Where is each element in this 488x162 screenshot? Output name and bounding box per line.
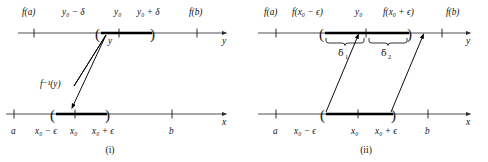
- panel-i-label-x0-plus-eps: x₀ + ϵ: [91, 126, 115, 136]
- panel-i-label-x0-minus-eps: x₀ − ϵ: [34, 126, 58, 136]
- panel-i-x-close-paren: ): [105, 107, 110, 124]
- panel-i-y-axis-name: y: [221, 36, 227, 46]
- panel-ii-map-arrow-right: [391, 38, 422, 112]
- panel-ii-brace-delta2: [369, 38, 407, 46]
- panel-i-x-axis-name: x: [221, 117, 227, 127]
- figure-canvas: f(a) y₀ − δ y₀ y₀ + δ f(b) ( ) y y: [0, 0, 488, 162]
- panel-i-label-y0: y₀: [113, 7, 121, 17]
- panel-ii-x-open-paren: (: [320, 107, 325, 124]
- panel-i-label-b: b: [169, 126, 174, 136]
- panel-i-x-open-paren: (: [50, 107, 55, 124]
- panel-ii-label-b: b: [425, 126, 430, 136]
- panel-ii-x-close-paren: ): [391, 107, 396, 124]
- panel-i-label-y0-minus-delta: y₀ − δ: [61, 7, 85, 17]
- panel-i-label-f-b: f(b): [189, 7, 202, 18]
- panel-i-label-y0-plus-delta: y₀ + δ: [136, 7, 160, 17]
- panel-ii-label-f-a: f(a): [264, 7, 277, 18]
- panel-ii-y-close-paren: ): [407, 26, 412, 43]
- panel-ii-caption: (ii): [360, 144, 372, 156]
- panel-ii-label-x0-minus-eps: x₀ − ϵ: [293, 126, 317, 136]
- panel-i: f(a) y₀ − δ y₀ y₀ + δ f(b) ( ) y y: [6, 7, 227, 156]
- panel-ii-label-delta1: δ: [338, 47, 344, 58]
- panel-i-label-f-a: f(a): [22, 7, 35, 18]
- panel-i-label-a: a: [11, 126, 16, 136]
- figure-root: f(a) y₀ − δ y₀ y₀ + δ f(b) ( ) y y: [0, 0, 488, 162]
- panel-ii-label-a: a: [273, 126, 278, 136]
- panel-ii-y-open-paren: (: [319, 26, 324, 43]
- panel-ii-x-axis-name: x: [465, 117, 471, 127]
- panel-ii-label-delta2: δ: [381, 47, 387, 58]
- panel-ii-label-f-x0-plus-eps: f(x₀ + ϵ): [383, 7, 414, 18]
- panel-ii-label-f-x0-minus-eps: f(x₀ − ϵ): [292, 7, 323, 18]
- panel-i-preimage-label: f⁻¹(y): [40, 79, 61, 90]
- panel-i-caption: (i): [105, 144, 114, 156]
- panel-i-connector-arrow: [74, 35, 106, 105]
- panel-i-label-x0: x₀: [69, 126, 77, 136]
- panel-ii-label-f-b: f(b): [446, 7, 459, 18]
- panel-i-point-y-label: y: [107, 36, 113, 46]
- panel-i-connector-segment-lower: [74, 35, 106, 86]
- panel-ii-label-delta1-subscript: 1: [345, 53, 348, 60]
- panel-i-y-open-paren: (: [95, 26, 100, 43]
- panel-ii-y-axis-name: y: [465, 36, 471, 46]
- panel-ii-brace-delta1: [326, 38, 364, 46]
- panel-ii-label-y0: y₀: [354, 7, 362, 17]
- panel-ii-label-x0-plus-eps: x₀ + ϵ: [374, 126, 398, 136]
- panel-i-y-close-paren: ): [150, 26, 155, 43]
- panel-ii-label-delta2-subscript: 2: [388, 53, 391, 60]
- panel-ii: f(a) f(x₀ − ϵ) y₀ f(x₀ + ϵ) f(b) ( ) y δ…: [258, 7, 471, 156]
- panel-ii-label-x0: x₀: [350, 126, 358, 136]
